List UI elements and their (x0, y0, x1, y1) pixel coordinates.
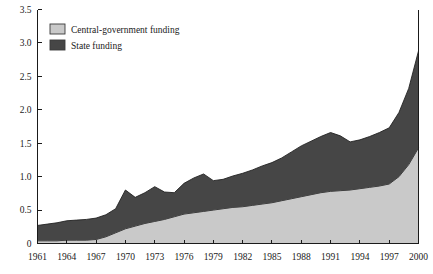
y-tick-label: 3.0 (20, 38, 32, 48)
chart-container: 00.51.01.52.02.53.03.5 19611964196719701… (0, 0, 433, 274)
x-tick-label: 1982 (233, 252, 252, 262)
x-tick-label: 1988 (292, 252, 311, 262)
y-tick-label: 1.5 (20, 139, 32, 149)
stacked-area-chart: 00.51.01.52.02.53.03.5 19611964196719701… (0, 0, 433, 274)
chart-legend: Central-government fundingState funding (50, 24, 180, 51)
y-tick-label: 0.5 (20, 205, 32, 215)
y-axis-ticks: 00.51.01.52.02.53.03.5 (20, 5, 42, 249)
x-tick-label: 2000 (409, 252, 428, 262)
y-tick-label: 3.5 (20, 5, 32, 15)
legend-swatch-2 (50, 40, 65, 50)
x-tick-label: 1985 (262, 252, 281, 262)
x-tick-label: 1991 (321, 252, 340, 262)
x-tick-label: 1970 (116, 252, 135, 262)
x-tick-label: 1994 (350, 252, 369, 262)
x-tick-label: 1979 (204, 252, 223, 262)
x-tick-label: 1997 (380, 252, 399, 262)
y-tick-label: 2.0 (20, 105, 32, 115)
x-tick-label: 1973 (145, 252, 164, 262)
y-tick-label: 1.0 (20, 172, 32, 182)
x-tick-label: 1967 (87, 252, 106, 262)
legend-label-2: State funding (71, 41, 122, 51)
x-tick-label: 1964 (57, 252, 76, 262)
y-tick-label: 2.5 (20, 72, 32, 82)
legend-label-1: Central-government funding (71, 25, 180, 35)
area-series-group (38, 51, 419, 244)
x-tick-label: 1976 (175, 252, 194, 262)
legend-swatch-1 (50, 24, 65, 34)
y-tick-label: 0 (27, 239, 32, 249)
x-tick-label: 1961 (28, 252, 47, 262)
